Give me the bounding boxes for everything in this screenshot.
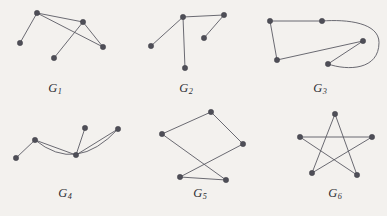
graph-edge <box>270 21 277 60</box>
graph-label-g4: G4 <box>58 186 72 201</box>
graph-label-g6: G6 <box>328 186 342 201</box>
graph-vertex <box>297 134 302 139</box>
graph-vertex <box>73 152 78 157</box>
graph-vertex <box>360 38 365 43</box>
graph-vertex <box>115 126 120 131</box>
graph-edge <box>37 13 83 22</box>
graph-edge <box>162 134 226 180</box>
graph-edge <box>76 129 118 155</box>
graph-canvas <box>0 0 387 216</box>
graph-edge <box>35 140 76 155</box>
graph-vertex <box>32 137 37 142</box>
graph-label-subscript: 2 <box>189 87 193 96</box>
graph-label-base: G <box>193 186 202 200</box>
graph-label-subscript: 3 <box>323 87 327 96</box>
graph-edge <box>300 137 357 175</box>
graph-vertex <box>159 131 164 136</box>
graph-edge <box>180 144 243 177</box>
graph-edge <box>335 114 357 175</box>
edge-group <box>270 21 379 68</box>
edge-group <box>151 15 224 68</box>
graph-g3 <box>267 18 379 67</box>
graph-vertex <box>354 172 359 177</box>
graph-vertex <box>17 40 22 45</box>
graph-edge <box>312 114 335 173</box>
graph-edge <box>277 41 363 60</box>
graph-label-subscript: 4 <box>68 192 72 201</box>
graph-label-subscript: 5 <box>203 192 207 201</box>
graph-vertex <box>369 134 374 139</box>
graph-label-g1: G1 <box>48 81 62 96</box>
graph-vertex <box>332 111 337 116</box>
graph-vertex <box>267 18 272 23</box>
graph-vertex <box>319 18 324 23</box>
graph-vertex <box>82 125 87 130</box>
vertex-group <box>267 18 365 66</box>
vertex-group <box>297 111 374 177</box>
graph-vertex <box>148 43 153 48</box>
graph-edge <box>211 112 243 144</box>
graph-g6 <box>297 111 374 177</box>
graph-label-g3: G3 <box>313 81 327 96</box>
graph-vertex <box>201 35 206 40</box>
graph-label-base: G <box>48 81 57 95</box>
graph-edge <box>151 17 183 46</box>
graph-edge <box>16 140 35 158</box>
graph-edge <box>183 15 224 17</box>
graph-label-subscript: 1 <box>58 87 62 96</box>
edge-group <box>16 128 118 158</box>
graph-edge <box>312 137 372 173</box>
graph-vertex <box>223 177 228 182</box>
graph-vertex <box>182 65 187 70</box>
graph-figure: G1G2G3G4G5G6 <box>0 0 387 216</box>
graph-label-g5: G5 <box>193 186 207 201</box>
graph-vertex <box>80 19 85 24</box>
vertex-group <box>13 125 120 160</box>
graph-vertex <box>177 174 182 179</box>
graph-label-base: G <box>179 81 188 95</box>
graph-vertex <box>240 141 245 146</box>
graph-label-base: G <box>58 186 67 200</box>
edge-group <box>300 114 372 175</box>
graph-edge <box>76 128 85 155</box>
graph-edge <box>183 17 185 68</box>
graph-edge <box>162 112 211 134</box>
graph-vertex <box>180 14 185 19</box>
graph-edge <box>204 15 224 38</box>
vertex-group <box>148 12 226 70</box>
graph-g5 <box>159 109 245 182</box>
graph-vertex <box>325 61 330 66</box>
graph-edge <box>180 177 226 180</box>
vertex-group <box>159 109 245 182</box>
graph-edge <box>20 13 37 43</box>
graph-edge <box>83 22 103 47</box>
graph-vertex <box>309 170 314 175</box>
graph-vertex <box>274 57 279 62</box>
graph-vertex <box>51 55 56 60</box>
graph-label-base: G <box>328 186 337 200</box>
graph-edge <box>54 22 83 58</box>
graph-vertex <box>34 10 39 15</box>
graph-vertex <box>221 12 226 17</box>
edge-group <box>162 112 243 180</box>
graph-vertex <box>100 44 105 49</box>
edge-group <box>20 13 103 58</box>
graph-label-g2: G2 <box>179 81 193 96</box>
graph-label-base: G <box>313 81 322 95</box>
graph-vertex <box>208 109 213 114</box>
graph-g2 <box>148 12 226 70</box>
graph-label-subscript: 6 <box>338 192 342 201</box>
graph-g4 <box>13 125 120 160</box>
graph-g1 <box>17 10 105 60</box>
graph-edge <box>35 129 118 155</box>
graph-vertex <box>13 155 18 160</box>
graph-edge <box>37 13 103 47</box>
